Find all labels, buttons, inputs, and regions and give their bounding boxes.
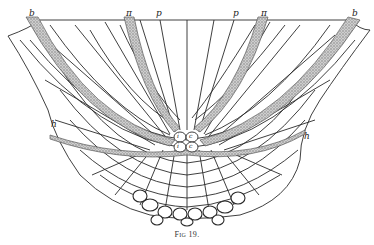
- label-b-right: b: [352, 9, 358, 18]
- root-cap-cells: [133, 190, 245, 226]
- caption-prefix: Fig: [175, 230, 187, 239]
- label-center-1: i: [177, 133, 179, 139]
- figure-caption: Fig 19.: [0, 230, 374, 239]
- label-h-right: h: [304, 132, 310, 141]
- label-p-right: p: [233, 9, 239, 18]
- label-pi-left: π: [126, 9, 132, 18]
- label-b-left: b: [29, 9, 35, 18]
- caption-number: 19.: [189, 230, 200, 239]
- label-center-4: c: [189, 143, 192, 149]
- label-h-left: h: [51, 120, 57, 129]
- label-pi-right: π: [261, 9, 267, 18]
- label-p-left: p: [156, 9, 162, 18]
- figure-19: b π p p π b h h i c i c Fig 19.: [0, 0, 374, 245]
- label-center-3: i: [177, 143, 179, 149]
- label-center-2: c: [189, 133, 192, 139]
- cell-grid: [8, 20, 370, 219]
